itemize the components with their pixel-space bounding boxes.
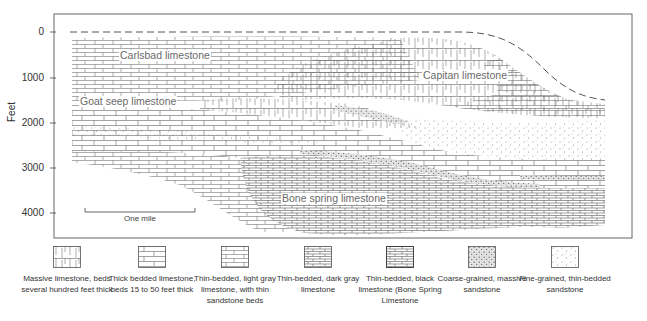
thin-bedded-dark-limestone-swatch-icon xyxy=(304,246,332,268)
label-goat-seep-limestone: Goat seep limestone xyxy=(79,96,177,107)
label-carlsbad-limestone: Carlsbad limestone xyxy=(119,50,211,61)
scale-bar-label: One mile xyxy=(124,214,156,223)
y-tick-4000: 4000 xyxy=(8,207,44,218)
y-tick-0: 0 xyxy=(8,26,44,37)
fine-sandstone-swatch-icon xyxy=(551,246,579,268)
legend-label: Fine-grained, thin-bedded sandstone xyxy=(515,273,615,295)
legend: Massive limestone, beds several hundred … xyxy=(0,246,647,321)
thin-bedded-light-limestone-swatch-icon xyxy=(221,246,249,268)
coarse-sandstone-swatch-icon xyxy=(468,246,496,268)
thin-bedded-black-limestone-swatch-icon xyxy=(386,246,414,268)
y-tick-3000: 3000 xyxy=(8,162,44,173)
thick-bedded-limestone-swatch-icon xyxy=(138,246,166,268)
cross-section-figure: Feet 0 1000 2000 3000 4000 Carlsbad lime… xyxy=(0,0,647,245)
massive-limestone-swatch-icon xyxy=(53,246,81,268)
cross-section-drawing xyxy=(0,0,647,245)
label-capitan-limestone: Capitan limestone xyxy=(422,70,508,81)
label-bone-spring-limestone: Bone spring limestone xyxy=(281,193,387,204)
y-tick-1000: 1000 xyxy=(8,72,44,83)
y-tick-2000: 2000 xyxy=(8,117,44,128)
legend-item-fine-grained-sandstone: Fine-grained, thin-bedded sandstone xyxy=(515,246,615,295)
